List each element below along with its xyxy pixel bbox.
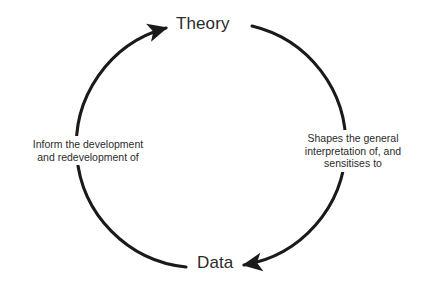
node-label-data: Data: [197, 253, 233, 273]
edge-label-theory-to-data: Shapes the general interpretation of, an…: [284, 130, 422, 172]
node-label-theory: Theory: [176, 14, 230, 34]
diagram-canvas: Theory Data Inform the development and r…: [0, 0, 428, 283]
edge-label-data-to-theory: Inform the development and redevelopment…: [12, 136, 164, 165]
